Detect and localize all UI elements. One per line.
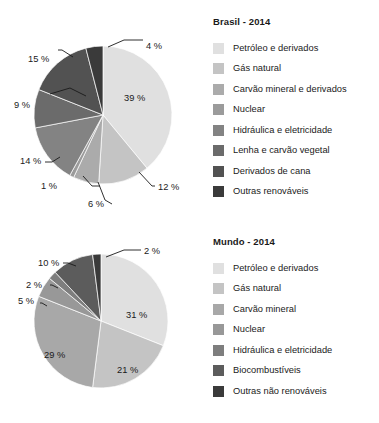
legend-item-brasil-5: Lenha e carvão vegetal: [205, 141, 379, 162]
chart-mundo-2014: 2 % 10 % 2 % 5 % 29 % 21 % 31 % Mundo - …: [0, 218, 379, 423]
pct-label-mundo-21: 21 %: [117, 365, 138, 375]
legend-item-brasil-2: Carvão mineral e derivados: [205, 79, 379, 100]
legend-item-mundo-2: Carvão mineral: [205, 299, 379, 320]
legend-label-mundo-1: Gás natural: [233, 283, 281, 294]
pct-label-brasil-4: 4 %: [146, 41, 162, 51]
pct-label-brasil-9: 9 %: [14, 100, 30, 110]
footer-cut-text-strip: [0, 409, 379, 423]
legend-item-brasil-6: Derivados de cana: [205, 161, 379, 182]
legend-swatch-mundo-3: [213, 324, 224, 335]
legend-label-brasil-0: Petróleo e derivados: [233, 43, 318, 54]
legend-swatch-mundo-6: [213, 386, 224, 397]
legend-label-brasil-5: Lenha e carvão vegetal: [233, 145, 330, 156]
pct-label-mundo-10: 10 %: [38, 258, 59, 268]
pct-label-brasil-1: 1 %: [41, 181, 57, 191]
pct-label-brasil-6: 6 %: [88, 199, 104, 209]
pct-label-brasil-12: 12 %: [158, 182, 179, 192]
pie-chart-mundo: [0, 218, 205, 423]
legend-label-brasil-7: Outras renováveis: [233, 186, 308, 197]
legend-swatch-brasil-7: [213, 186, 224, 197]
legend-label-mundo-4: Hidráulica e eletricidade: [233, 345, 332, 356]
chart-brasil-2014: 4 % 15 % 9 % 14 % 1 % 6 % 12 % 39 % Bras…: [0, 0, 379, 218]
legend-item-mundo-1: Gás natural: [205, 279, 379, 300]
pct-label-mundo-31: 31 %: [126, 310, 147, 320]
legend-swatch-brasil-0: [213, 43, 224, 54]
legend-item-mundo-4: Hidráulica e eletricidade: [205, 340, 379, 361]
legend-label-brasil-2: Carvão mineral e derivados: [233, 84, 347, 95]
legend-swatch-brasil-1: [213, 63, 224, 74]
legend-swatch-mundo-5: [213, 365, 224, 376]
legend-item-brasil-1: Gás natural: [205, 59, 379, 80]
legend-title-mundo: Mundo - 2014: [213, 236, 379, 247]
legend-label-mundo-6: Outras não renováveis: [233, 386, 327, 397]
legend-item-mundo-6: Outras não renováveis: [205, 381, 379, 402]
pct-label-mundo-5: 5 %: [18, 296, 34, 306]
legend-list-brasil: Petróleo e derivadosGás naturalCarvão mi…: [205, 38, 379, 202]
legend-item-brasil-3: Nuclear: [205, 100, 379, 121]
legend-item-mundo-3: Nuclear: [205, 320, 379, 341]
legend-brasil: Brasil - 2014 Petróleo e derivadosGás na…: [205, 16, 379, 202]
legend-label-brasil-4: Hidráulica e eletricidade: [233, 125, 332, 136]
legend-item-brasil-4: Hidráulica e eletricidade: [205, 120, 379, 141]
legend-swatch-mundo-4: [213, 345, 224, 356]
legend-label-brasil-6: Derivados de cana: [233, 166, 311, 177]
brasil-leader-1: [58, 50, 73, 57]
legend-swatch-mundo-0: [213, 263, 224, 274]
legend-swatch-brasil-2: [213, 84, 224, 95]
legend-label-brasil-1: Gás natural: [233, 63, 281, 74]
pie-area-mundo: 2 % 10 % 2 % 5 % 29 % 21 % 31 %: [0, 218, 205, 423]
legend-list-mundo: Petróleo e derivadosGás naturalCarvão mi…: [205, 258, 379, 402]
pct-label-mundo-29: 29 %: [44, 350, 65, 360]
pct-label-brasil-39: 39 %: [124, 93, 145, 103]
legend-item-brasil-0: Petróleo e derivados: [205, 38, 379, 59]
legend-label-mundo-3: Nuclear: [233, 324, 265, 335]
legend-title-brasil: Brasil - 2014: [213, 16, 379, 27]
brasil-leader-6: [139, 172, 155, 186]
legend-label-mundo-5: Biocombustíveis: [233, 365, 301, 376]
legend-label-mundo-2: Carvão mineral: [233, 304, 296, 315]
legend-item-brasil-7: Outras renováveis: [205, 182, 379, 203]
legend-label-mundo-0: Petróleo e derivados: [233, 263, 318, 274]
legend-swatch-brasil-3: [213, 104, 224, 115]
pie-area-brasil: 4 % 15 % 9 % 14 % 1 % 6 % 12 % 39 %: [0, 0, 205, 218]
legend-swatch-mundo-2: [213, 304, 224, 315]
pct-label-mundo-2a: 2 %: [26, 280, 42, 290]
legend-mundo: Mundo - 2014 Petróleo e derivadosGás nat…: [205, 236, 379, 402]
legend-swatch-brasil-5: [213, 145, 224, 156]
legend-label-brasil-3: Nuclear: [233, 104, 265, 115]
pct-label-brasil-14: 14 %: [20, 156, 41, 166]
legend-item-mundo-0: Petróleo e derivados: [205, 258, 379, 279]
legend-swatch-mundo-1: [213, 283, 224, 294]
pct-label-brasil-15: 15 %: [28, 54, 49, 64]
legend-swatch-brasil-6: [213, 166, 224, 177]
legend-swatch-brasil-4: [213, 125, 224, 136]
legend-item-mundo-5: Biocombustíveis: [205, 361, 379, 382]
pct-label-mundo-2b: 2 %: [144, 246, 160, 256]
brasil-leader-0: [108, 40, 143, 47]
